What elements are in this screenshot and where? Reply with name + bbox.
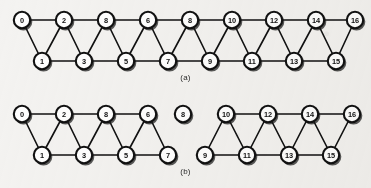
graph-node[interactable]: 15 xyxy=(328,53,344,69)
graph-node[interactable]: 7 xyxy=(160,53,176,69)
graph-node[interactable]: 8 xyxy=(175,106,191,122)
node-label: 7 xyxy=(166,151,170,160)
graph-node[interactable]: 13 xyxy=(281,147,297,163)
node-label: 6 xyxy=(146,16,150,25)
node-label: 11 xyxy=(248,57,256,66)
caption-b: (b) xyxy=(0,167,371,176)
node-label: 0 xyxy=(20,16,24,25)
node-label: 8 xyxy=(104,16,108,25)
graph-node[interactable]: 16 xyxy=(344,106,360,122)
graph-node[interactable]: 0 xyxy=(14,106,30,122)
node-label: 11 xyxy=(243,151,251,160)
node-label: 3 xyxy=(82,57,86,66)
graph-node[interactable]: 1 xyxy=(34,53,50,69)
graph-node[interactable]: 7 xyxy=(160,147,176,163)
node-label: 16 xyxy=(351,16,359,25)
graph-node[interactable]: 1 xyxy=(34,147,50,163)
node-label: 13 xyxy=(290,57,298,66)
graph-node[interactable]: 9 xyxy=(197,147,213,163)
node-label: 7 xyxy=(166,57,170,66)
node-label: 8 xyxy=(104,110,108,119)
node-label: 1 xyxy=(40,57,44,66)
node-label: 6 xyxy=(146,110,150,119)
node-label: 13 xyxy=(285,151,293,160)
node-label: 14 xyxy=(312,16,321,25)
graph-node[interactable]: 16 xyxy=(347,12,363,28)
graph-node[interactable]: 2 xyxy=(56,106,72,122)
caption-a: (a) xyxy=(0,73,371,82)
graph-node[interactable]: 15 xyxy=(323,147,339,163)
node-label: 14 xyxy=(306,110,315,119)
node-label: 9 xyxy=(208,57,212,66)
node-label: 2 xyxy=(62,110,66,119)
node-label: 15 xyxy=(327,151,335,160)
node-label: 2 xyxy=(62,16,66,25)
graph-node[interactable]: 9 xyxy=(202,53,218,69)
node-label: 5 xyxy=(124,151,128,160)
figure-container: 028681012141613579111315 (a) 02861357810… xyxy=(0,0,371,188)
graph-node[interactable]: 5 xyxy=(118,147,134,163)
graph-node[interactable]: 12 xyxy=(266,12,282,28)
node-label: 8 xyxy=(181,110,185,119)
graph-node[interactable]: 3 xyxy=(76,147,92,163)
graph-node[interactable]: 8 xyxy=(182,12,198,28)
graph-node[interactable]: 2 xyxy=(56,12,72,28)
graph-node[interactable]: 10 xyxy=(224,12,240,28)
node-label: 12 xyxy=(270,16,278,25)
graph-node[interactable]: 8 xyxy=(98,106,114,122)
node-label: 0 xyxy=(20,110,24,119)
node-label: 8 xyxy=(188,16,192,25)
node-label: 3 xyxy=(82,151,86,160)
graph-node[interactable]: 3 xyxy=(76,53,92,69)
graph-node[interactable]: 8 xyxy=(98,12,114,28)
node-label: 15 xyxy=(332,57,340,66)
node-label: 5 xyxy=(124,57,128,66)
graph-node[interactable]: 5 xyxy=(118,53,134,69)
graph-node[interactable]: 10 xyxy=(218,106,234,122)
node-label: 10 xyxy=(228,16,236,25)
graph-node[interactable]: 12 xyxy=(260,106,276,122)
graph-node[interactable]: 14 xyxy=(308,12,324,28)
node-label: 1 xyxy=(40,151,44,160)
node-label: 10 xyxy=(222,110,230,119)
graph-node[interactable]: 14 xyxy=(302,106,318,122)
graph-node[interactable]: 11 xyxy=(239,147,255,163)
graph-node[interactable]: 13 xyxy=(286,53,302,69)
graph-node[interactable]: 6 xyxy=(140,12,156,28)
node-label: 12 xyxy=(264,110,272,119)
graph-node[interactable]: 6 xyxy=(140,106,156,122)
graph-node[interactable]: 0 xyxy=(14,12,30,28)
node-label: 9 xyxy=(203,151,207,160)
node-label: 16 xyxy=(348,110,356,119)
graph-node[interactable]: 11 xyxy=(244,53,260,69)
